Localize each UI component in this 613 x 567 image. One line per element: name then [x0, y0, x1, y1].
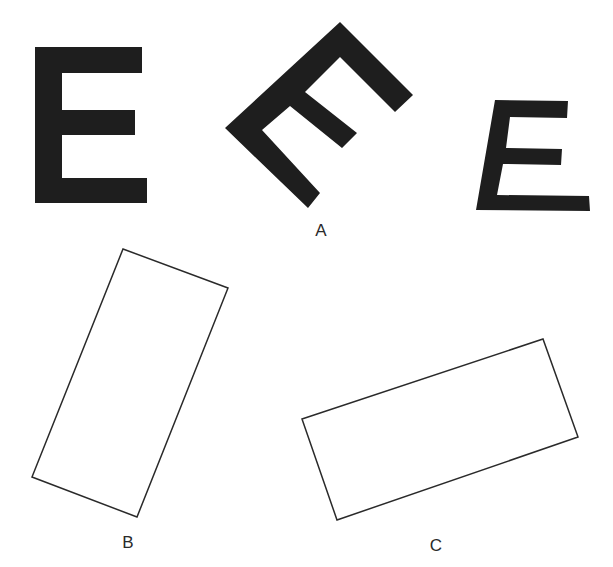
- letter-e-upright: [35, 47, 147, 203]
- letter-e-rotated: [225, 22, 413, 208]
- rectangle-c: [302, 339, 578, 520]
- figure-canvas: [0, 0, 613, 567]
- rectangle-b: [32, 249, 228, 517]
- label-b: B: [122, 534, 133, 551]
- letter-e-slanted: [476, 100, 590, 211]
- label-c: C: [430, 537, 442, 554]
- figure: A B C: [0, 0, 613, 567]
- label-a: A: [315, 222, 326, 239]
